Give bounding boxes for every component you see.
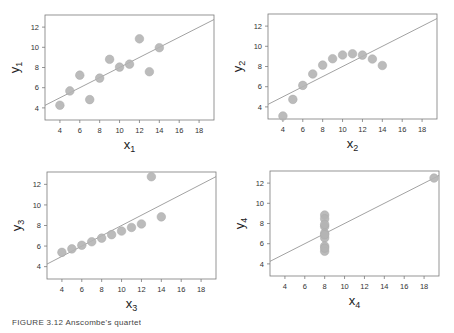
y-tick-label: 4 [260, 260, 264, 269]
y-tick-label: 8 [260, 219, 264, 228]
data-point [320, 220, 329, 229]
x-axis-label: x1 [124, 137, 136, 154]
data-point [68, 245, 77, 254]
x-tick-label: 12 [135, 126, 143, 135]
data-point [328, 54, 337, 63]
data-point [145, 67, 154, 76]
data-point [58, 248, 67, 257]
regression-line [268, 19, 437, 105]
data-point [75, 71, 84, 80]
data-point [115, 63, 124, 72]
x-tick-label: 6 [78, 126, 82, 135]
y-tick-label: 8 [37, 221, 41, 230]
data-point [338, 51, 347, 60]
data-point [378, 61, 387, 70]
data-point [66, 87, 75, 96]
y-tick-label: 6 [258, 82, 262, 91]
data-point [95, 74, 104, 83]
data-point [358, 51, 367, 60]
x-tick-label: 8 [323, 282, 327, 291]
y-tick-label: 12 [31, 23, 39, 32]
x-tick-label: 14 [155, 126, 163, 135]
x-tick-label: 16 [398, 125, 406, 134]
x-tick-label: 14 [378, 125, 386, 134]
data-point [289, 95, 298, 104]
y-tick-label: 12 [33, 180, 41, 189]
data-point [56, 101, 65, 110]
y-tick-label: 4 [35, 104, 39, 113]
x-tick-label: 4 [60, 285, 64, 294]
x-tick-label: 6 [301, 125, 305, 134]
y-tick-label: 6 [35, 83, 39, 92]
y-axis-label: y4 [232, 218, 249, 230]
x-tick-label: 6 [80, 285, 84, 294]
x-tick-label: 10 [340, 282, 348, 291]
scatter-panel-2: 46810121416184681012x2y2 [230, 14, 437, 153]
data-point [87, 237, 96, 246]
data-point [430, 174, 439, 183]
y-tick-label: 6 [37, 242, 41, 251]
data-point [320, 230, 329, 239]
x-tick-label: 12 [137, 285, 145, 294]
y-tick-label: 10 [33, 201, 41, 210]
x-tick-label: 4 [283, 282, 287, 291]
x-tick-label: 8 [100, 285, 104, 294]
y-tick-label: 12 [256, 179, 264, 188]
data-point [135, 35, 144, 44]
data-point [348, 49, 357, 58]
data-point [117, 227, 126, 236]
scatter-panel-4: 46810121416184681012x4y4 [232, 171, 439, 310]
data-point [320, 244, 329, 253]
figure-caption: FIGURE 3.12 Anscombe's quartet [12, 318, 141, 330]
x-axis-label: x2 [347, 136, 359, 153]
x-tick-label: 6 [303, 282, 307, 291]
data-point [85, 95, 94, 104]
y-axis-label: y3 [9, 220, 26, 232]
y-axis-label: y2 [230, 61, 247, 73]
x-axis-label: x4 [349, 293, 361, 310]
regression-line [270, 176, 439, 262]
x-tick-label: 8 [98, 126, 102, 135]
data-point [127, 223, 136, 232]
x-axis-label: x3 [126, 296, 138, 313]
x-tick-label: 12 [360, 282, 368, 291]
data-point [105, 55, 114, 64]
data-point [107, 230, 116, 239]
data-point [77, 241, 86, 250]
x-tick-label: 4 [58, 126, 62, 135]
data-point [157, 213, 166, 222]
x-tick-label: 18 [418, 125, 426, 134]
scatter-panel-3: 46810121416184681012x3y3 [9, 172, 216, 313]
y-tick-label: 6 [260, 239, 264, 248]
x-tick-label: 10 [117, 285, 125, 294]
data-point [125, 60, 134, 69]
plot-frame [270, 171, 439, 276]
data-point [279, 112, 288, 121]
x-tick-label: 16 [175, 126, 183, 135]
x-tick-label: 10 [115, 126, 123, 135]
y-tick-label: 4 [258, 103, 262, 112]
data-point [308, 70, 317, 79]
x-tick-label: 12 [358, 125, 366, 134]
x-tick-label: 18 [195, 126, 203, 135]
y-tick-label: 4 [37, 262, 41, 271]
scatter-panel-1: 46810121416184681012x1y1 [7, 15, 214, 154]
x-tick-label: 18 [197, 285, 205, 294]
y-tick-label: 10 [254, 42, 262, 51]
data-point [368, 55, 377, 64]
data-point [137, 220, 146, 229]
x-tick-label: 8 [321, 125, 325, 134]
y-tick-label: 8 [258, 62, 262, 71]
data-point [97, 234, 106, 243]
x-tick-label: 16 [400, 282, 408, 291]
y-axis-label: y1 [7, 62, 24, 74]
y-tick-label: 8 [35, 63, 39, 72]
data-point [155, 43, 164, 52]
data-point [318, 61, 327, 70]
y-tick-label: 10 [256, 199, 264, 208]
data-point [147, 172, 156, 181]
x-tick-label: 4 [281, 125, 285, 134]
x-tick-label: 14 [157, 285, 165, 294]
y-tick-label: 10 [31, 43, 39, 52]
anscombe-quartet-figure: 46810121416184681012x1y14681012141618468… [0, 0, 454, 333]
